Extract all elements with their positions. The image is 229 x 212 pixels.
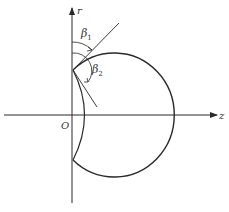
z-axis-label: z (218, 110, 225, 121)
angle-arc-beta2-tick (84, 78, 88, 82)
origin-label: O (61, 120, 69, 131)
r-axis-label: r (77, 5, 83, 16)
angle-arc-beta1 (72, 42, 92, 50)
beta2-label: β2 (91, 63, 103, 78)
beta1-label: β1 (80, 27, 92, 42)
diagram-canvas: r z O β1 β2 (0, 0, 229, 212)
